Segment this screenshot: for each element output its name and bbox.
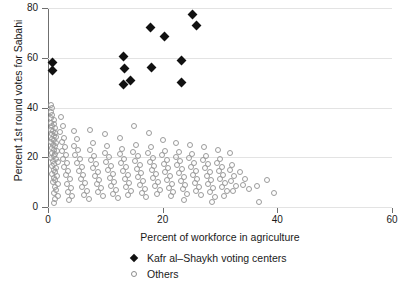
data-point-other bbox=[242, 176, 248, 182]
legend-entry-others: Others bbox=[126, 266, 376, 282]
data-point-other bbox=[240, 182, 246, 188]
data-point-other bbox=[160, 137, 166, 143]
scatter-plot-figure: 020406080 0204060 Percent 1st round vote… bbox=[0, 0, 403, 288]
data-point-other bbox=[246, 186, 252, 192]
data-point-other bbox=[104, 143, 110, 149]
legend: Kafr al–Shaykh voting centers Others bbox=[126, 250, 376, 282]
x-tick-label: 20 bbox=[143, 215, 183, 225]
data-point-other bbox=[87, 127, 93, 133]
x-tick-label: 40 bbox=[257, 215, 297, 225]
data-point-other bbox=[71, 128, 77, 134]
data-point-other bbox=[227, 167, 233, 173]
data-point-kafr bbox=[177, 78, 187, 88]
x-tick bbox=[392, 208, 393, 213]
data-point-other bbox=[237, 169, 243, 175]
data-point-other bbox=[271, 190, 277, 196]
data-point-other bbox=[125, 192, 131, 198]
data-point-other bbox=[100, 193, 106, 199]
data-point-other bbox=[221, 193, 227, 199]
x-tick-label: 60 bbox=[372, 215, 403, 225]
data-point-kafr bbox=[160, 31, 170, 41]
data-point-other bbox=[51, 200, 57, 206]
data-point-kafr bbox=[188, 9, 198, 19]
data-point-other bbox=[181, 197, 187, 203]
data-point-kafr bbox=[119, 52, 129, 62]
data-point-other bbox=[254, 183, 260, 189]
filled-diamond-icon bbox=[126, 255, 142, 261]
data-point-other bbox=[117, 135, 123, 141]
data-point-other bbox=[115, 195, 121, 201]
data-point-other bbox=[60, 123, 66, 129]
gridline bbox=[48, 207, 392, 208]
legend-label-others: Others bbox=[142, 268, 179, 280]
y-axis-title: Percent 1st round votes for Sabahi bbox=[13, 0, 24, 211]
data-point-other bbox=[256, 199, 262, 205]
data-point-kafr bbox=[146, 63, 156, 73]
data-point-other bbox=[87, 147, 93, 153]
data-point-other bbox=[102, 131, 108, 137]
data-point-other bbox=[74, 136, 80, 142]
x-axis-title: Percent of workforce in agriculture bbox=[48, 231, 392, 243]
data-point-other bbox=[201, 144, 207, 150]
data-point-other bbox=[168, 193, 174, 199]
data-point-other bbox=[264, 177, 270, 183]
open-circle-icon bbox=[126, 271, 142, 277]
data-point-other bbox=[227, 150, 233, 156]
data-point-other bbox=[154, 191, 160, 197]
x-tick-label: 0 bbox=[28, 215, 68, 225]
data-point-other bbox=[184, 191, 190, 197]
data-point-other bbox=[66, 197, 72, 203]
data-point-other bbox=[230, 188, 236, 194]
plot-area bbox=[48, 8, 392, 207]
data-point-other bbox=[133, 142, 139, 148]
data-point-other bbox=[215, 147, 221, 153]
data-point-other bbox=[143, 194, 149, 200]
data-point-other bbox=[187, 142, 193, 148]
data-point-other bbox=[198, 192, 204, 198]
data-point-kafr bbox=[176, 55, 186, 65]
data-point-other bbox=[86, 196, 92, 202]
data-point-other bbox=[146, 130, 152, 136]
x-tick bbox=[48, 208, 49, 213]
data-point-other bbox=[131, 123, 137, 129]
data-point-other bbox=[173, 140, 179, 146]
data-point-other bbox=[209, 199, 215, 205]
x-tick bbox=[277, 208, 278, 213]
data-point-kafr bbox=[47, 65, 57, 75]
data-point-other bbox=[58, 114, 64, 120]
data-point-kafr bbox=[120, 64, 130, 74]
data-point-kafr bbox=[146, 23, 156, 33]
x-tick bbox=[163, 208, 164, 213]
legend-label-kafr: Kafr al–Shaykh voting centers bbox=[142, 252, 287, 264]
data-point-other bbox=[90, 140, 96, 146]
data-point-kafr bbox=[192, 20, 202, 30]
legend-entry-kafr: Kafr al–Shaykh voting centers bbox=[126, 250, 376, 266]
